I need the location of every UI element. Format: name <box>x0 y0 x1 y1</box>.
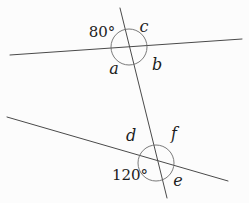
geometry-figure: 80°cabdf120°e <box>0 0 249 203</box>
angle-label-a: a <box>109 59 119 78</box>
angle-label-d: d <box>126 126 136 145</box>
top-line <box>10 39 242 55</box>
angle-label-f: f <box>170 124 180 143</box>
angle-label-80: 80° <box>89 23 116 41</box>
angle-label-120: 120° <box>112 166 148 184</box>
figure-svg: 80°cabdf120°e <box>0 0 249 203</box>
angle-label-c: c <box>140 17 149 36</box>
angle-label-b: b <box>152 55 162 74</box>
angle-label-e: e <box>173 171 182 190</box>
